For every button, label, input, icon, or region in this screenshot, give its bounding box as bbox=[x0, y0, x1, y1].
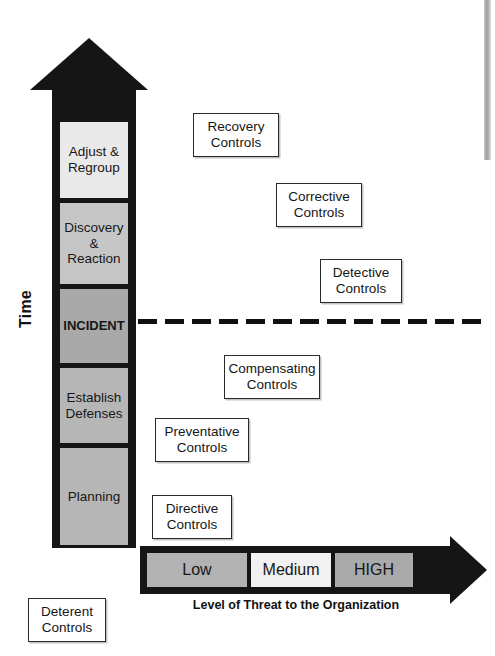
time-segment-incident: INCIDENT bbox=[60, 289, 128, 363]
dash-mark bbox=[138, 319, 157, 324]
dash-mark bbox=[246, 319, 265, 324]
control-box-label: Compensating bbox=[228, 361, 315, 377]
dash-mark bbox=[435, 319, 454, 324]
control-box-compensating[interactable]: CompensatingControls bbox=[224, 355, 320, 399]
threat-segment-medium: Medium bbox=[251, 553, 331, 587]
control-box-detective[interactable]: DetectiveControls bbox=[320, 259, 402, 303]
control-box-recovery[interactable]: RecoveryControls bbox=[193, 113, 279, 157]
time-segment-label: Adjust & bbox=[68, 144, 120, 160]
threat-segment-label: Low bbox=[182, 561, 211, 579]
control-box-label: Deterent bbox=[41, 604, 93, 620]
dash-mark bbox=[381, 319, 400, 324]
time-segment-establish-defenses: EstablishDefenses bbox=[60, 368, 128, 443]
threat-segment-low: Low bbox=[147, 553, 247, 587]
dash-mark bbox=[300, 319, 319, 324]
threat-axis-caption: Level of Threat to the Organization bbox=[140, 598, 452, 612]
control-box-label: Controls bbox=[177, 440, 227, 456]
page-edge-artifact bbox=[484, 0, 491, 160]
time-axis-label: Time bbox=[17, 274, 35, 344]
time-segment-discovery-reaction: Discovery& Reaction bbox=[60, 203, 128, 284]
threat-arrow-head-icon bbox=[450, 536, 487, 604]
control-box-preventative[interactable]: PreventativeControls bbox=[155, 418, 249, 462]
control-box-label: Controls bbox=[336, 281, 386, 297]
time-segment-label: Defenses bbox=[65, 406, 122, 422]
time-segment-label: Planning bbox=[68, 489, 121, 505]
dash-mark bbox=[327, 319, 346, 324]
dash-mark bbox=[219, 319, 238, 324]
control-box-label: Detective bbox=[333, 265, 389, 281]
time-segment-label: INCIDENT bbox=[63, 318, 124, 333]
threat-segment-high: HIGH bbox=[335, 553, 413, 587]
time-segment-label: Discovery bbox=[62, 220, 126, 236]
control-box-label: Controls bbox=[42, 620, 92, 636]
control-box-label: Corrective bbox=[288, 189, 350, 205]
control-box-label: Controls bbox=[247, 377, 297, 393]
threat-segment-label: HIGH bbox=[354, 561, 394, 579]
diagram-canvas: Adjust &RegroupDiscovery& ReactionINCIDE… bbox=[0, 0, 495, 656]
control-box-label: Controls bbox=[294, 205, 344, 221]
control-box-label: Controls bbox=[211, 135, 261, 151]
dash-mark bbox=[408, 319, 427, 324]
control-box-corrective[interactable]: CorrectiveControls bbox=[276, 183, 362, 227]
dash-mark bbox=[462, 319, 481, 324]
control-box-label: Preventative bbox=[164, 424, 239, 440]
time-segment-label: & Reaction bbox=[62, 236, 126, 267]
time-segment-planning: Planning bbox=[60, 448, 128, 545]
threat-segment-label: Medium bbox=[263, 561, 320, 579]
dash-mark bbox=[165, 319, 184, 324]
dash-mark bbox=[354, 319, 373, 324]
control-box-directive[interactable]: DirectiveControls bbox=[152, 495, 232, 539]
time-arrow-head-icon bbox=[30, 38, 148, 90]
time-segment-label: Regroup bbox=[68, 160, 120, 176]
time-segment-label: Establish bbox=[65, 390, 122, 406]
control-box-deterent[interactable]: DeterentControls bbox=[28, 598, 106, 642]
incident-dashed-line bbox=[138, 319, 466, 324]
dash-mark bbox=[273, 319, 292, 324]
control-box-label: Directive bbox=[166, 501, 219, 517]
control-box-label: Controls bbox=[167, 517, 217, 533]
time-segment-adjust-regroup: Adjust &Regroup bbox=[60, 122, 128, 198]
control-box-label: Recovery bbox=[207, 119, 264, 135]
dash-mark bbox=[192, 319, 211, 324]
